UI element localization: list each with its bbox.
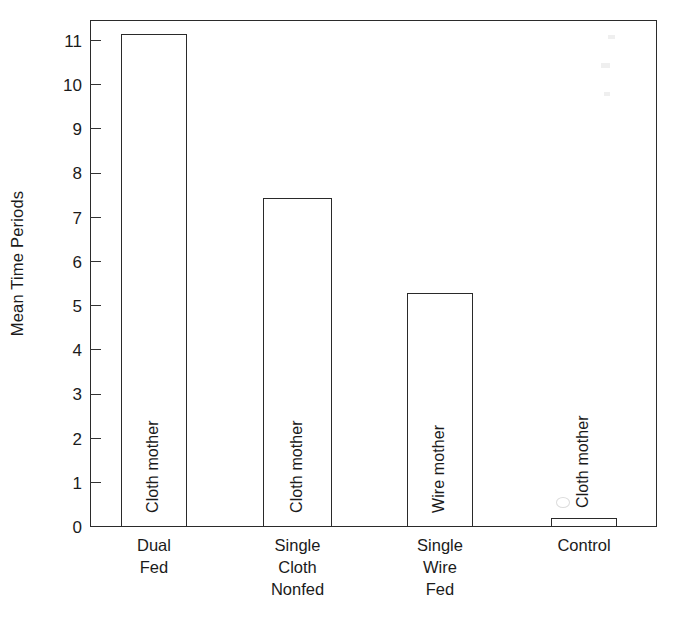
x-axis-category-line: Fed bbox=[370, 578, 510, 600]
x-axis-category-line: Nonfed bbox=[228, 578, 368, 600]
y-axis-tick-label-text: 4 bbox=[54, 342, 82, 359]
y-axis-tick bbox=[90, 261, 101, 262]
axis-and-series-layer: 01234567891011Cloth motherCloth motherWi… bbox=[0, 0, 673, 623]
y-axis-tick bbox=[90, 217, 101, 218]
y-axis-tick-label-text: 10 bbox=[54, 77, 82, 94]
x-axis-category-line: Control bbox=[514, 534, 654, 556]
scan-artifact bbox=[604, 92, 610, 96]
y-axis-tick bbox=[90, 482, 101, 483]
x-axis-category-label: Control bbox=[514, 534, 654, 556]
y-axis-tick bbox=[90, 128, 101, 129]
y-axis-tick-label-text: 9 bbox=[54, 121, 82, 138]
x-axis-category-line: Dual bbox=[84, 534, 224, 556]
y-axis-tick bbox=[90, 40, 101, 41]
bar-value-label: Cloth mother bbox=[144, 420, 162, 513]
y-axis-tick bbox=[90, 438, 101, 439]
bar bbox=[551, 518, 617, 527]
y-axis-tick bbox=[90, 173, 101, 174]
y-axis-tick-label-text: 8 bbox=[54, 165, 82, 182]
y-axis-tick bbox=[90, 305, 101, 306]
bar-value-label: Cloth mother bbox=[288, 420, 306, 513]
x-axis-category-line: Fed bbox=[84, 556, 224, 578]
y-axis-tick bbox=[90, 349, 101, 350]
y-axis-tick bbox=[90, 394, 101, 395]
x-axis-category-line: Single bbox=[228, 534, 368, 556]
bar-chart-figure: Mean Time Periods 01234567891011Cloth mo… bbox=[0, 0, 673, 623]
scan-artifact bbox=[556, 497, 570, 508]
y-axis-tick-label-text: 2 bbox=[54, 430, 82, 447]
x-axis-category-line: Cloth bbox=[228, 556, 368, 578]
x-axis-category-label: SingleClothNonfed bbox=[228, 534, 368, 600]
scan-artifact bbox=[601, 63, 610, 68]
y-axis-tick-label-text: 5 bbox=[54, 298, 82, 315]
bar-value-label: Wire mother bbox=[430, 425, 448, 513]
y-axis-tick bbox=[90, 84, 101, 85]
x-axis-category-label: DualFed bbox=[84, 534, 224, 578]
scan-artifact bbox=[608, 35, 615, 39]
y-axis-tick-label-text: 3 bbox=[54, 386, 82, 403]
y-axis-tick-label-text: 7 bbox=[54, 209, 82, 226]
bar-value-label: Cloth mother bbox=[574, 415, 592, 508]
y-axis-tick-label-text: 6 bbox=[54, 253, 82, 270]
y-axis-tick-label-text: 11 bbox=[54, 32, 82, 49]
x-axis-category-line: Single bbox=[370, 534, 510, 556]
x-axis-category-label: SingleWireFed bbox=[370, 534, 510, 600]
x-axis-category-line: Wire bbox=[370, 556, 510, 578]
y-axis-tick-label-text: 0 bbox=[54, 519, 82, 536]
y-axis-tick-label-text: 1 bbox=[54, 474, 82, 491]
